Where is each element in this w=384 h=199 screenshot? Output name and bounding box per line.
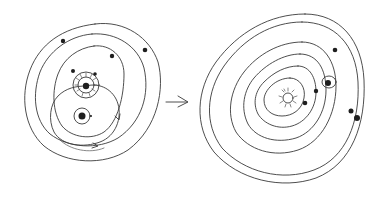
right-planet <box>349 109 354 114</box>
left-middle-orbit <box>35 34 145 146</box>
left-planet <box>110 54 114 58</box>
right-system <box>200 14 364 183</box>
left-planet <box>61 39 65 43</box>
left-companion-body <box>74 108 92 124</box>
orbit-transformation-diagram <box>0 0 384 199</box>
left-planet <box>71 69 75 73</box>
right-planet <box>333 48 338 53</box>
transformation-arrow-icon <box>166 96 188 107</box>
right-sun-icon <box>279 88 297 107</box>
right-ringed-planet <box>322 76 336 88</box>
left-outer-orbit <box>25 23 161 160</box>
right-orbit-6 <box>264 78 304 116</box>
right-orbit-1 <box>200 14 364 183</box>
left-sun-icon <box>73 72 99 98</box>
left-system <box>25 23 161 160</box>
right-planet <box>303 101 308 106</box>
left-planet <box>143 48 148 53</box>
right-planet <box>314 89 318 93</box>
left-planet <box>93 72 97 76</box>
right-planet <box>354 115 360 121</box>
